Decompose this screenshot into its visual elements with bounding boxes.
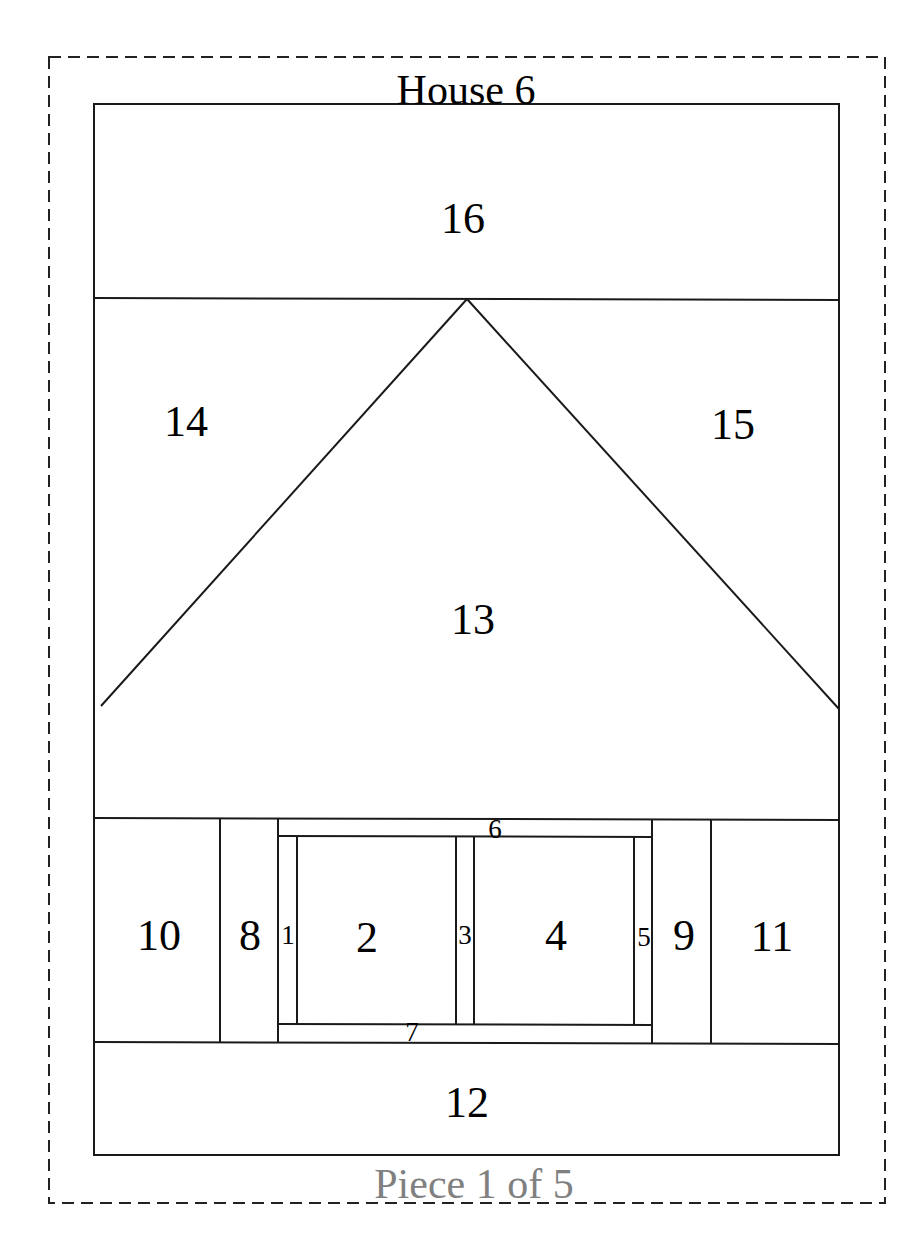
line-12-top — [94, 1042, 839, 1044]
roof-left-diagonal — [101, 299, 467, 706]
piece-label-3: 3 — [458, 920, 472, 950]
piece-label-15: 15 — [711, 400, 755, 449]
piece-label-8: 8 — [239, 911, 261, 960]
pattern-title: House 6 — [397, 67, 536, 113]
paper-piecing-diagram: House 6 16 14 15 13 6 10 8 1 2 3 4 5 9 1… — [0, 0, 924, 1249]
piece-label-16: 16 — [441, 194, 485, 243]
piece-label-12: 12 — [445, 1078, 489, 1127]
piece-footer: Piece 1 of 5 — [374, 1161, 573, 1207]
piece-label-4: 4 — [545, 911, 567, 960]
piece-label-2: 2 — [356, 913, 378, 962]
piece-label-14: 14 — [164, 397, 208, 446]
strip-6-bottom — [278, 836, 652, 837]
piece-label-11: 11 — [751, 912, 793, 961]
strip-7-top — [278, 1024, 652, 1025]
piece-label-10: 10 — [137, 911, 181, 960]
roof-right-diagonal — [467, 299, 839, 709]
piece-label-1: 1 — [281, 920, 295, 950]
line-13-bottom — [94, 818, 839, 820]
piece-label-5: 5 — [637, 922, 651, 952]
piece-label-6: 6 — [488, 814, 502, 844]
piece-label-7: 7 — [405, 1017, 419, 1047]
piece-label-13: 13 — [451, 595, 495, 644]
piece-label-9: 9 — [673, 911, 695, 960]
